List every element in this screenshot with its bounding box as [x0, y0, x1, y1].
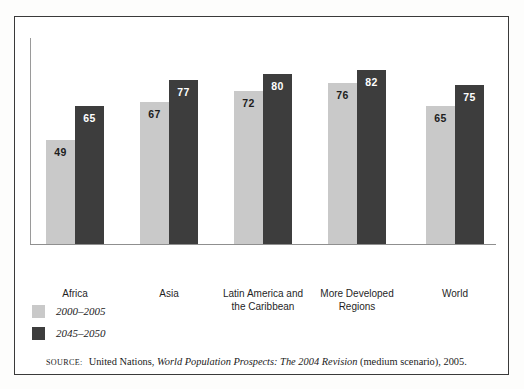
bar-series-2000-2005[interactable]: 49 — [46, 140, 75, 244]
bar-series-2045-2050[interactable]: 82 — [357, 70, 386, 244]
bar-series-2000-2005[interactable]: 76 — [328, 83, 357, 244]
chart-plot-area: 49 65 67 77 72 8 — [30, 38, 496, 244]
source-note-publisher: United Nations, — [89, 356, 155, 367]
category-label-line: World — [390, 288, 520, 301]
bar-value-label: 72 — [234, 98, 263, 109]
bar-value-label: 77 — [169, 87, 198, 98]
category-label-line: Regions — [292, 301, 422, 314]
bar-series-2045-2050[interactable]: 80 — [263, 74, 292, 244]
bar-value-label: 65 — [426, 113, 455, 124]
bar-value-label: 75 — [455, 92, 484, 103]
source-note: Source:United Nations, World Population … — [46, 355, 496, 369]
figure-frame: 49 65 67 77 72 8 — [14, 16, 509, 375]
bar-series-2045-2050[interactable]: 75 — [455, 85, 484, 244]
bar-value-label: 49 — [46, 147, 75, 158]
source-note-suffix: (medium scenario), 2005. — [360, 356, 467, 367]
bar-value-label: 80 — [263, 81, 292, 92]
bar-group: 67 77 — [140, 38, 198, 244]
bar-series-2045-2050[interactable]: 77 — [169, 80, 198, 244]
chart-legend: 2000–2005 2045–2050 — [32, 300, 106, 344]
bar-series-2000-2005[interactable]: 65 — [426, 106, 455, 244]
bar-series-2000-2005[interactable]: 67 — [140, 102, 169, 244]
legend-swatch-icon — [32, 305, 45, 318]
legend-label: 2045–2050 — [56, 327, 106, 339]
bar-group: 72 80 — [234, 38, 292, 244]
legend-item-2045-2050[interactable]: 2045–2050 — [32, 322, 106, 344]
source-note-title: World Population Prospects: The 2004 Rev… — [157, 356, 357, 367]
bar-series-2045-2050[interactable]: 65 — [75, 106, 104, 244]
legend-label: 2000–2005 — [56, 305, 106, 317]
x-axis-line — [30, 244, 496, 245]
bar-group: 76 82 — [328, 38, 386, 244]
bar-group: 65 75 — [426, 38, 484, 244]
source-note-prefix: Source: — [46, 358, 83, 367]
bar-value-label: 65 — [75, 113, 104, 124]
bar-series-2000-2005[interactable]: 72 — [234, 91, 263, 244]
legend-swatch-icon — [32, 327, 45, 340]
bar-value-label: 76 — [328, 90, 357, 101]
bar-value-label: 67 — [140, 109, 169, 120]
category-label-world: World — [390, 288, 520, 301]
legend-item-2000-2005[interactable]: 2000–2005 — [32, 300, 106, 322]
bar-value-label: 82 — [357, 77, 386, 88]
bar-group: 49 65 — [46, 38, 104, 244]
y-axis-line — [30, 38, 31, 244]
scanned-page: 49 65 67 77 72 8 — [0, 0, 524, 389]
